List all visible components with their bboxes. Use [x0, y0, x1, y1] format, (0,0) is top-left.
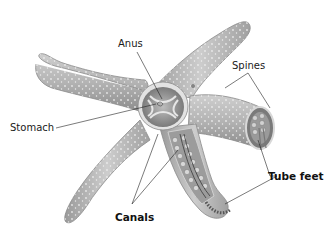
- madreporite: [191, 84, 194, 87]
- sea-star-diagram: Anus Spines Stomach Tube feet Canals: [0, 0, 326, 233]
- label-spines: Spines: [232, 60, 265, 72]
- label-anus: Anus: [118, 38, 143, 50]
- label-tube-feet: Tube feet: [268, 170, 324, 182]
- arm-upper-left: [36, 54, 149, 112]
- arm-lower-dissected: [160, 124, 230, 218]
- label-stomach: Stomach: [10, 122, 54, 134]
- label-canals: Canals: [115, 211, 154, 223]
- sea-star-illustration: [0, 0, 326, 233]
- arm-lower-left: [65, 120, 150, 223]
